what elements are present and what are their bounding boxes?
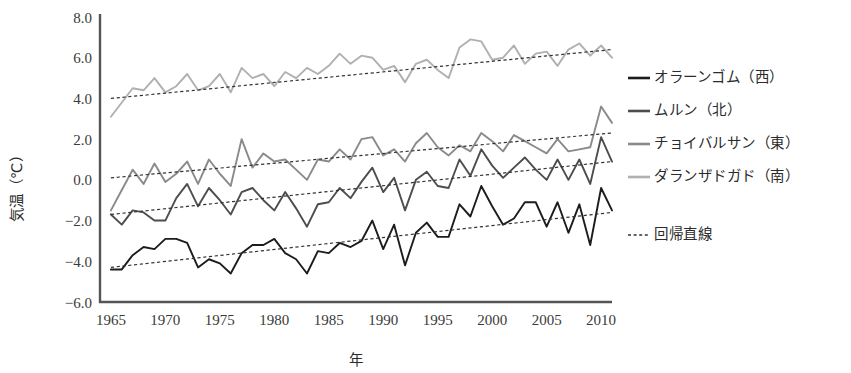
legend-label: チョイバルサン（東） <box>654 135 799 151</box>
legend-label-trendline: 回帰直線 <box>654 225 712 242</box>
x-tick-label: 2005 <box>532 312 562 328</box>
x-axis-title: 年 <box>349 352 364 368</box>
legend-item: ダランザドガド（南） <box>628 168 799 184</box>
y-tick-label: 4.0 <box>73 91 92 107</box>
y-tick-label: −4.0 <box>65 254 92 270</box>
y-tick-label: 2.0 <box>73 132 92 148</box>
x-tick-label: 1990 <box>368 312 398 328</box>
legend-label: ダランザドガド（南） <box>654 168 799 184</box>
x-tick-label: 2000 <box>477 312 507 328</box>
y-tick-label: 0.0 <box>73 172 92 188</box>
x-axis-tick-labels: 1965197019751980198519901995200020052010 <box>96 312 616 328</box>
y-tick-label: 8.0 <box>73 10 92 26</box>
y-axis-title: 気温（℃） <box>9 148 25 223</box>
legend-item: オラーンゴム（西） <box>628 68 784 85</box>
series-line-東 <box>111 107 612 211</box>
x-tick-label: 1965 <box>96 312 126 328</box>
y-axis-title-group: 気温（℃） <box>9 148 25 223</box>
y-tick-label: 6.0 <box>73 50 92 66</box>
x-tick-label: 1970 <box>150 312 180 328</box>
x-tick-label: 1980 <box>259 312 289 328</box>
legend-item: チョイバルサン（東） <box>628 135 799 151</box>
series-line-南 <box>111 39 612 116</box>
temperature-line-chart: 気温（℃） 8.06.04.02.00.0−2.0−4.0−6.0 196519… <box>0 0 851 373</box>
series-line-西 <box>111 186 612 274</box>
chart-legend: オラーンゴム（西）ムルン（北）チョイバルサン（東）ダランザドガド（南）回帰直線 <box>628 68 799 242</box>
legend-label: ムルン（北） <box>654 102 741 118</box>
legend-item-trendline: 回帰直線 <box>628 225 712 242</box>
x-tick-label: 1985 <box>314 312 344 328</box>
legend-label: オラーンゴム（西） <box>654 68 784 85</box>
series-line-北 <box>111 137 612 227</box>
x-tick-label: 1975 <box>205 312 235 328</box>
y-axis-tick-labels: 8.06.04.02.00.0−2.0−4.0−6.0 <box>65 10 92 311</box>
y-tick-label: −6.0 <box>65 295 92 311</box>
trendline-group <box>111 50 612 268</box>
trendline-西 <box>111 212 612 267</box>
x-tick-label: 2010 <box>586 312 616 328</box>
y-tick-label: −2.0 <box>65 213 92 229</box>
legend-item: ムルン（北） <box>628 102 741 118</box>
chart-figure: 気温（℃） 8.06.04.02.00.0−2.0−4.0−6.0 196519… <box>0 0 851 373</box>
x-tick-label: 1995 <box>423 312 453 328</box>
